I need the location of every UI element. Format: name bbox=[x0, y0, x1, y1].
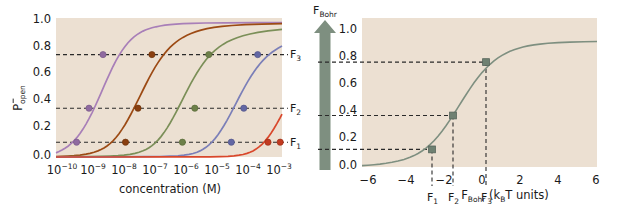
left-xtick-0-exp: −10 bbox=[61, 162, 77, 171]
left-plot-background bbox=[56, 18, 282, 157]
right-ytick-0.4: 0.4 bbox=[339, 103, 357, 117]
left-xtick-6: 10−4 bbox=[235, 162, 261, 177]
right-xtick-1: −4 bbox=[398, 173, 415, 187]
curve-2-marker-f1 bbox=[122, 139, 128, 145]
curve-5-extra-markers bbox=[265, 139, 271, 145]
right-ytick-0.8: 0.8 bbox=[339, 49, 357, 63]
left-flabel-f1-sub: 1 bbox=[296, 142, 301, 151]
left-ytick-0.6: 0.6 bbox=[33, 65, 51, 79]
left-x-axis: 10−10 10−9 10−8 10−7 10−6 10−5 10−4 10−3 bbox=[47, 162, 292, 177]
right-marker-f3 bbox=[483, 59, 490, 66]
curve-4-marker-f2 bbox=[241, 105, 247, 111]
right-ytick-0.6: 0.6 bbox=[339, 76, 357, 90]
left-panel-group: 1.0 0.8 0.6 0.4 0.2 0.0 Popen 10−10 10−9… bbox=[11, 12, 301, 196]
left-xtick-4: 10−6 bbox=[173, 162, 199, 177]
arrow-label: FBohr bbox=[313, 4, 338, 19]
figure-svg: 1.0 0.8 0.6 0.4 0.2 0.0 Popen 10−10 10−9… bbox=[0, 0, 618, 219]
left-flabel-f3: F3 bbox=[290, 48, 301, 63]
right-flabel-f1-sub: 1 bbox=[433, 197, 438, 206]
left-xtick-4-mant: 10 bbox=[173, 163, 188, 177]
left-xtick-3-mant: 10 bbox=[142, 163, 157, 177]
left-ytick-0.4: 0.4 bbox=[33, 92, 51, 106]
curve-2-marker-f2 bbox=[135, 105, 141, 111]
left-xtick-7: 10−3 bbox=[266, 162, 292, 177]
right-flabel-f2-sub: 2 bbox=[454, 197, 459, 206]
right-xlabel-main: F bbox=[461, 188, 468, 202]
right-xlabel-units-pre: (k bbox=[485, 188, 500, 202]
right-ytick-0.0: 0.0 bbox=[339, 158, 357, 172]
right-xlabel-sub: Bohr bbox=[468, 195, 486, 204]
right-flabel-f1: F1 bbox=[427, 191, 438, 206]
left-xtick-5-mant: 10 bbox=[204, 163, 219, 177]
right-xtick-3: 0 bbox=[478, 173, 485, 187]
left-xtick-7-exp: −3 bbox=[281, 162, 292, 171]
left-y-axis: 1.0 0.8 0.6 0.4 0.2 0.0 bbox=[33, 12, 51, 162]
left-ytick-0.8: 0.8 bbox=[33, 39, 51, 53]
left-ylabel-sub: open bbox=[18, 85, 27, 104]
right-panel-group: 1.0 0.8 0.6 0.4 0.2 0.0 −6 −4 −2 0 2 4 6… bbox=[318, 18, 600, 206]
right-xtick-2: −2 bbox=[436, 173, 453, 187]
left-xtick-6-exp: −4 bbox=[250, 162, 261, 171]
left-xtick-1-exp: −9 bbox=[95, 162, 106, 171]
left-xtick-4-exp: −6 bbox=[188, 162, 199, 171]
curve-5-marker-f1b bbox=[265, 139, 271, 145]
curve-4-marker-f3 bbox=[255, 52, 261, 58]
left-f-labels: F3 F2 F1 bbox=[290, 48, 301, 151]
right-ytick-1.0: 1.0 bbox=[339, 22, 357, 36]
arrow-label-sub: Bohr bbox=[319, 10, 337, 19]
right-xtick-0: −6 bbox=[360, 173, 377, 187]
left-flabel-f1: F1 bbox=[290, 136, 301, 151]
right-xtick-5: 4 bbox=[554, 173, 561, 187]
left-xtick-2-exp: −8 bbox=[126, 162, 137, 171]
left-ylabel-group: Popen bbox=[11, 85, 27, 111]
arrow-shape bbox=[314, 20, 336, 170]
left-ytick-1.0: 1.0 bbox=[33, 12, 51, 26]
left-xtick-6-mant: 10 bbox=[235, 163, 250, 177]
figure-container: 1.0 0.8 0.6 0.4 0.2 0.0 Popen 10−10 10−9… bbox=[0, 0, 618, 219]
left-ylabel: Popen bbox=[11, 85, 27, 111]
left-xtick-0-mant: 10 bbox=[47, 163, 62, 177]
left-xtick-5-exp: −5 bbox=[219, 162, 230, 171]
left-ylabel-main: P bbox=[11, 104, 25, 111]
right-x-axis: −6 −4 −2 0 2 4 6 bbox=[360, 173, 600, 187]
curve-1-marker-f1 bbox=[74, 139, 80, 145]
left-flabel-f2: F2 bbox=[290, 102, 301, 117]
bohr-energy-arrow-group: FBohr bbox=[313, 4, 338, 170]
curve-2-marker-f3 bbox=[149, 52, 155, 58]
left-xlabel: concentration (M) bbox=[119, 182, 221, 196]
right-xlabel-units-post: T units) bbox=[504, 188, 548, 202]
curve-1-marker-f2 bbox=[86, 105, 92, 111]
right-flabel-f2: F2 bbox=[448, 191, 459, 206]
curve-3-marker-f1 bbox=[179, 139, 185, 145]
left-xtick-2-mant: 10 bbox=[111, 163, 126, 177]
curve-4-marker-f1 bbox=[228, 139, 234, 145]
left-xtick-2: 10−8 bbox=[111, 162, 137, 177]
left-flabel-f3-sub: 3 bbox=[296, 54, 301, 63]
curve-1-marker-f3 bbox=[100, 52, 106, 58]
right-xtick-6: 6 bbox=[592, 173, 599, 187]
left-xtick-1-mant: 10 bbox=[80, 163, 95, 177]
left-ytick-0.2: 0.2 bbox=[33, 119, 51, 133]
curve-5-marker-f1 bbox=[277, 139, 283, 145]
right-plot-background bbox=[362, 18, 597, 167]
left-ytick-0.0: 0.0 bbox=[33, 148, 51, 162]
left-xtick-0: 10−10 bbox=[47, 162, 78, 177]
left-xtick-5: 10−5 bbox=[204, 162, 230, 177]
right-marker-f1 bbox=[429, 146, 436, 153]
left-xtick-1: 10−9 bbox=[80, 162, 106, 177]
right-marker-f2 bbox=[450, 112, 457, 119]
left-xtick-3-exp: −7 bbox=[157, 162, 168, 171]
right-xtick-4: 2 bbox=[516, 173, 523, 187]
left-xtick-7-mant: 10 bbox=[266, 163, 281, 177]
left-flabel-f2-sub: 2 bbox=[296, 108, 301, 117]
right-ytick-0.2: 0.2 bbox=[339, 130, 357, 144]
left-xtick-3: 10−7 bbox=[142, 162, 168, 177]
curve-3-marker-f3 bbox=[206, 52, 212, 58]
curve-3-marker-f2 bbox=[192, 105, 198, 111]
right-xlabel: FBohr (kBT units) bbox=[461, 188, 549, 204]
